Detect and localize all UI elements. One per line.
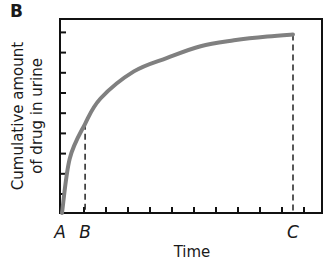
y-axis-label: Cumulative amount of drug in urine: [9, 42, 46, 190]
marker-labels: ABC: [53, 222, 299, 242]
marker-label-a: A: [53, 222, 66, 242]
cumulative-excretion-chart: B Cumulative amount of drug in urine ABC…: [0, 0, 331, 272]
marker-label-c: C: [287, 222, 299, 242]
marker-label-b: B: [79, 222, 91, 242]
cumulative-curve: [62, 35, 293, 214]
panel-label: B: [10, 1, 23, 21]
marker-dashed-lines: [85, 35, 293, 213]
x-axis-label: Time: [173, 243, 211, 261]
y-axis-label-line-1: Cumulative amount: [9, 42, 27, 190]
figure-panel: B Cumulative amount of drug in urine ABC…: [0, 0, 331, 272]
y-axis-label-line-2: of drug in urine: [28, 58, 46, 174]
